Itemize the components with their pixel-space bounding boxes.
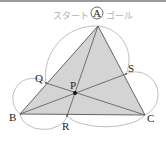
label-a: A: [93, 7, 101, 19]
point-p-dot: [73, 91, 77, 95]
label-s: S: [128, 62, 134, 74]
label-p: P: [70, 79, 76, 91]
arc-r-c: [67, 115, 145, 127]
point-r-dot: [66, 115, 68, 117]
goal-label: ゴール: [106, 10, 133, 21]
label-c: C: [147, 112, 154, 124]
start-label: スタート: [53, 11, 89, 21]
label-q: Q: [35, 72, 43, 84]
arc-b-r: [20, 114, 67, 129]
point-s-dot: [125, 73, 127, 75]
label-b: B: [9, 111, 16, 123]
triangle-diagram: A スタート ゴール B C P Q R S: [0, 0, 166, 143]
label-r: R: [62, 120, 70, 132]
point-q-dot: [45, 82, 47, 84]
